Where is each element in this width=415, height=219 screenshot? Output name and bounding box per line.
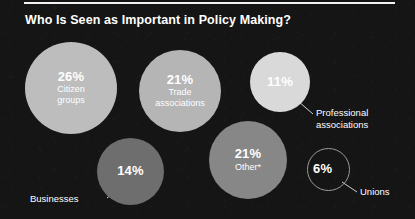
bubble-value-citizen-groups: 26% (58, 70, 85, 85)
bubble-unions[interactable]: 6% (307, 148, 350, 191)
bubble-value-unions: 6% (308, 162, 332, 177)
bubble-label-citizen-groups: Citizen groups (57, 84, 85, 106)
bubble-value-businesses: 14% (117, 164, 144, 179)
bubble-trade-associations[interactable]: 21% Trade associations (139, 50, 221, 132)
bubble-businesses[interactable]: 14% (97, 138, 164, 205)
bubble-label-other: Other* (235, 162, 261, 173)
callout-label-unions: Unions (360, 186, 390, 198)
bubble-citizen-groups[interactable]: 26% Citizen groups (25, 42, 117, 134)
bubble-label-trade-associations: Trade associations (155, 87, 205, 109)
bubble-value-professional-associations: 11% (267, 75, 293, 90)
callout-label-professional-associations: Professional associations (316, 107, 368, 131)
bubble-value-other: 21% (235, 147, 262, 162)
bubble-professional-associations[interactable]: 11% (250, 52, 310, 112)
bubble-other[interactable]: 21% Other* (209, 121, 287, 199)
callout-label-businesses: Businesses (30, 193, 79, 205)
policy-making-bubble-infographic: Who Is Seen as Important in Policy Makin… (0, 0, 415, 219)
bubble-value-trade-associations: 21% (167, 73, 194, 88)
